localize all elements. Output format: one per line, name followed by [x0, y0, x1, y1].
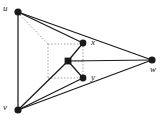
edge-v-y	[18, 78, 83, 110]
node-u	[14, 8, 21, 15]
graph-figure: uvwxy	[0, 0, 163, 122]
node-x	[80, 40, 87, 47]
edge-center-w	[68, 60, 152, 61]
node-y	[80, 75, 87, 82]
edge-v-w	[18, 60, 152, 110]
edge-u-x	[18, 12, 83, 43]
node-label-u: u	[3, 4, 8, 13]
node-label-x: x	[91, 38, 95, 47]
graph-canvas	[0, 0, 163, 122]
edge-u-w	[18, 12, 152, 60]
node-label-v: v	[3, 103, 7, 112]
node-label-y: y	[91, 73, 95, 82]
node-v	[14, 106, 21, 113]
edge-v-center	[18, 61, 68, 110]
node-label-w: w	[150, 65, 156, 74]
solid-edges-group	[18, 12, 152, 110]
node-w	[148, 56, 155, 63]
node-center	[65, 58, 72, 65]
